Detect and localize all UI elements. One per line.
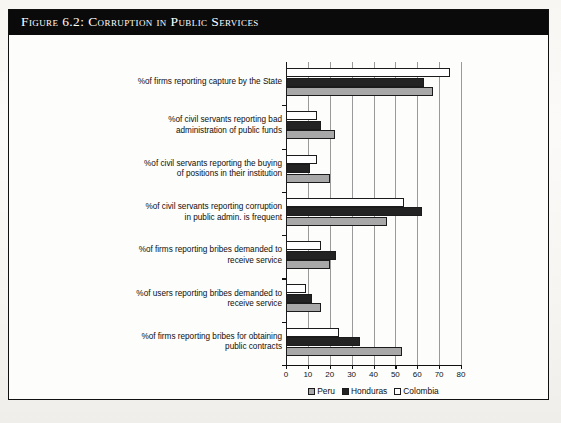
x-tick-80 [461, 365, 462, 369]
category-label-2: %of civil servants reporting the buying … [82, 159, 282, 180]
chart-area: %of firms reporting capture by the State… [9, 35, 548, 400]
bar-honduras-3 [286, 207, 422, 216]
bar-colombia-5 [286, 284, 306, 293]
y-tick-1 [282, 149, 286, 150]
x-tick-label-40: 40 [369, 370, 378, 379]
y-tick-4 [282, 278, 286, 279]
bar-peru-2 [286, 174, 330, 183]
y-tick-2 [282, 192, 286, 193]
bar-colombia-6 [286, 328, 339, 337]
plot-region [286, 62, 461, 365]
bar-colombia-0 [286, 68, 450, 77]
gridline-70 [439, 62, 440, 365]
legend-item-honduras[interactable]: Honduras [342, 386, 387, 396]
bar-peru-6 [286, 347, 402, 356]
bar-honduras-0 [286, 78, 424, 87]
legend-swatch-honduras [342, 388, 349, 395]
category-label-6: %of firms reporting bribes for obtaining… [82, 332, 282, 353]
bar-honduras-5 [286, 294, 312, 303]
x-tick-label-60: 60 [413, 370, 422, 379]
x-tick-label-20: 20 [325, 370, 334, 379]
bar-honduras-2 [286, 164, 310, 173]
legend-swatch-colombia [394, 388, 401, 395]
x-tick-30 [352, 365, 353, 369]
x-tick-0 [286, 365, 287, 369]
legend-swatch-peru [308, 388, 315, 395]
figure-title: Figure 6.2: Corruption in Public Service… [21, 14, 259, 30]
bar-colombia-1 [286, 111, 317, 120]
x-tick-20 [330, 365, 331, 369]
bar-peru-4 [286, 260, 330, 269]
x-tick-label-80: 80 [457, 370, 466, 379]
y-tick-0 [282, 105, 286, 106]
category-label-1: %of civil servants reporting bad adminis… [82, 115, 282, 136]
x-tick-40 [374, 365, 375, 369]
bar-colombia-2 [286, 155, 317, 164]
x-tick-10 [308, 365, 309, 369]
bar-peru-0 [286, 87, 433, 96]
category-label-5: %of users reporting bribes demanded to r… [82, 289, 282, 310]
category-axis-labels: %of firms reporting capture by the State… [79, 62, 282, 365]
legend-item-colombia[interactable]: Colombia [394, 386, 438, 396]
bar-peru-3 [286, 217, 387, 226]
gridline-80 [461, 62, 462, 365]
y-tick-3 [282, 235, 286, 236]
figure-title-banner: Figure 6.2: Corruption in Public Service… [9, 10, 548, 35]
category-label-4: %of firms reporting bribes demanded to r… [82, 245, 282, 266]
bar-colombia-3 [286, 198, 404, 207]
legend-item-peru[interactable]: Peru [308, 386, 335, 396]
figure-container: Figure 6.2: Corruption in Public Service… [8, 9, 549, 400]
x-tick-label-0: 0 [284, 370, 288, 379]
category-label-0: %of firms reporting capture by the State [82, 77, 282, 88]
x-tick-50 [395, 365, 396, 369]
x-tick-label-50: 50 [391, 370, 400, 379]
chart-legend: PeruHondurasColombia [286, 386, 461, 396]
legend-label-peru: Peru [317, 386, 335, 396]
y-tick-5 [282, 322, 286, 323]
bar-honduras-6 [286, 337, 360, 346]
bar-honduras-4 [286, 251, 336, 260]
bar-peru-1 [286, 130, 335, 139]
legend-label-colombia: Colombia [403, 386, 438, 396]
bar-honduras-1 [286, 121, 321, 130]
x-tick-label-10: 10 [303, 370, 312, 379]
legend-label-honduras: Honduras [351, 386, 387, 396]
bar-peru-5 [286, 303, 321, 312]
x-tick-60 [417, 365, 418, 369]
category-label-3: %of civil servants reporting corruption … [82, 202, 282, 223]
x-tick-70 [439, 365, 440, 369]
bar-colombia-4 [286, 241, 321, 250]
x-tick-label-70: 70 [435, 370, 444, 379]
x-tick-label-30: 30 [347, 370, 356, 379]
